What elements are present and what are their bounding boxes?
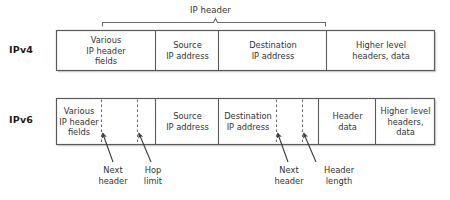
row-label-ipv4: IPv4 bbox=[9, 44, 33, 55]
row-label-ipv6: IPv6 bbox=[9, 114, 33, 125]
callout-hop-limit: Hop limit bbox=[134, 165, 172, 186]
ipv6-field-header-data: Header data bbox=[319, 99, 376, 145]
ip-header-brace-label: IP header bbox=[190, 5, 231, 15]
ipv4-field-source-ip-address: Source IP address bbox=[156, 31, 219, 71]
ipv4-field-higher-level-headers-data: Higher level headers, data bbox=[327, 31, 435, 71]
ipv6-field-various-ip-header-fields: Various IP header fields bbox=[56, 99, 102, 145]
ip-header-brace bbox=[103, 19, 326, 27]
ipv6-field-destination-ip-address: Destination IP address bbox=[219, 99, 277, 145]
ipv6-field-higher-level-headers-data: Higher level headers, data bbox=[376, 99, 435, 145]
ipv4-field-various-ip-header-fields: Various IP header fields bbox=[56, 31, 156, 71]
ipv4-field-destination-ip-address: Destination IP address bbox=[219, 31, 327, 71]
ip-header-diagram: IP header IPv4 IPv6 Various IP header fi… bbox=[0, 0, 450, 200]
callout-next-header-2: Next header bbox=[262, 165, 316, 186]
ipv6-field-source-ip-address: Source IP address bbox=[156, 99, 219, 145]
callout-header-length: Header length bbox=[312, 165, 366, 186]
callout-next-header-1: Next header bbox=[86, 165, 140, 186]
